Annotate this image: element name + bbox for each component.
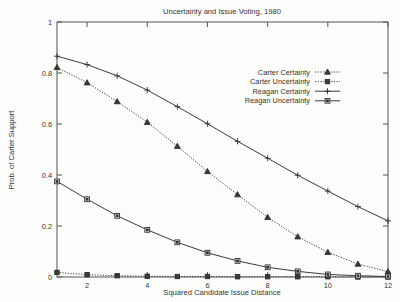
series-line [57,56,388,221]
data-point [356,273,361,278]
series-layer [54,53,391,279]
data-point [355,204,361,210]
data-point [144,119,150,124]
y-tick-label: 0.6 [42,120,52,129]
data-point [55,179,60,184]
data-point [296,275,300,279]
legend-label: Reagan Certainty [252,87,310,96]
data-point [84,62,90,68]
data-point [205,274,209,278]
series-reagan-certainty [54,53,391,224]
data-point [55,270,59,274]
y-tick-label: 0.8 [42,69,52,78]
data-point [54,64,60,69]
y-tick-label: 1 [48,18,52,27]
data-point [385,218,391,224]
data-point [205,168,211,173]
legend-marker [325,79,329,83]
data-point [325,249,331,254]
data-point [145,274,149,278]
legend-label: Carter Uncertainty [250,77,310,86]
data-point [265,275,269,279]
data-point [175,274,179,278]
data-point [295,234,301,239]
data-point [175,240,180,245]
data-point [235,138,241,144]
data-point [265,214,271,219]
chart-container: Uncertainty and Issue Voting, 1980 00.20… [0,0,400,302]
data-point [54,53,60,59]
y-tick-label: 0.4 [42,171,52,180]
legend-label: Reagan Uncertainty [245,96,311,105]
y-axis-ticks: 00.20.40.60.81 [42,18,388,282]
data-point [84,80,90,85]
legend-marker [325,98,330,103]
data-point [265,155,271,161]
data-point [145,227,150,232]
data-point [325,188,331,194]
data-point [295,269,300,274]
y-tick-label: 0 [48,273,52,282]
data-point [325,272,330,277]
data-point [115,213,120,218]
x-tick-label: 4 [145,281,149,290]
chart-legend: Carter CertaintyCarter UncertaintyReagan… [245,68,340,106]
x-tick-label: 2 [85,281,89,290]
data-point [85,273,89,277]
data-point [235,259,240,264]
series-line [57,67,388,271]
series-carter-certainty [54,64,391,273]
data-point [235,192,241,197]
data-point [114,73,120,79]
series-reagan-uncertainty [55,179,391,279]
x-tick-label: 10 [324,281,332,290]
data-point [115,274,119,278]
data-point [205,250,210,255]
x-axis-title: Squared Candidate Issue Distance [163,288,280,297]
chart-title: Uncertainty and Issue Voting, 1980 [163,7,281,16]
data-point [295,172,301,178]
series-line [57,181,388,276]
data-point [144,87,150,93]
y-tick-label: 0.2 [42,222,52,231]
legend-marker [325,88,331,94]
data-point [385,269,391,274]
data-point [85,197,90,202]
data-point [235,275,239,279]
data-point [174,104,180,110]
uncertainty-issue-voting-chart: Uncertainty and Issue Voting, 1980 00.20… [0,0,400,302]
plot-frame [57,22,388,277]
legend-label: Carter Certainty [258,68,310,77]
x-axis-ticks: 24681012 [85,22,392,290]
data-point [386,274,391,279]
x-tick-label: 12 [384,281,392,290]
data-point [114,99,120,104]
data-point [204,121,210,127]
data-point [265,265,270,270]
y-axis-title: Prob. of Carter Support [7,110,16,189]
